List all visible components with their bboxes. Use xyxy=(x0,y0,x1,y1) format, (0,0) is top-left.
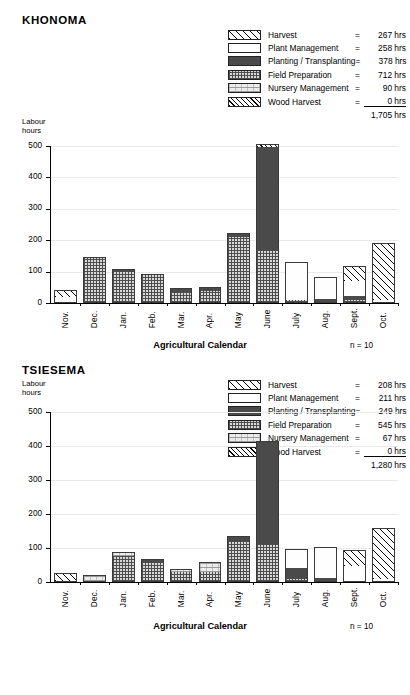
y-axis-tick xyxy=(46,412,50,413)
stacked-bar[interactable] xyxy=(199,287,222,303)
bar-segment xyxy=(315,578,336,581)
bar-slot[interactable] xyxy=(253,146,282,303)
x-axis-tick-label: Dec. xyxy=(90,587,99,607)
bar-slot[interactable] xyxy=(224,412,253,582)
x-axis-label-cell: July xyxy=(282,308,311,328)
bar-slot[interactable] xyxy=(138,412,167,582)
stacked-bar[interactable] xyxy=(343,266,366,303)
bar-slot[interactable] xyxy=(167,412,196,582)
stacked-bar[interactable] xyxy=(372,243,395,303)
legend-value: 378 hrs xyxy=(365,56,407,66)
stacked-bar[interactable] xyxy=(314,277,337,303)
stacked-bar[interactable] xyxy=(314,547,337,582)
x-axis-tick xyxy=(369,582,370,585)
stacked-bar[interactable] xyxy=(141,274,164,303)
stacked-bar[interactable] xyxy=(227,233,250,303)
stacked-bar[interactable] xyxy=(112,552,135,582)
bar-segment xyxy=(142,275,163,302)
bar-slot[interactable] xyxy=(109,146,138,303)
x-axis-label-cell: May xyxy=(224,587,253,607)
stacked-bar[interactable] xyxy=(227,536,250,582)
x-axis-label-cell: Apr. xyxy=(196,308,225,328)
legend-row: Field Preparation=712 hrs xyxy=(228,68,406,81)
bar-segment xyxy=(113,272,134,302)
y-axis-tick-label: 300 xyxy=(16,203,42,212)
x-axis-label-cell: Mar. xyxy=(167,308,196,328)
bar-slot[interactable] xyxy=(369,146,398,303)
bar-segment xyxy=(200,563,221,573)
x-axis-tick-label: Sept. xyxy=(350,308,359,328)
x-axis-label-cell: Mar. xyxy=(167,587,196,607)
bar-slot[interactable] xyxy=(138,146,167,303)
legend-label: Plant Management xyxy=(268,393,355,403)
x-axis-tick-label: Mar. xyxy=(177,587,186,607)
stacked-bar[interactable] xyxy=(170,569,193,582)
bar-slot[interactable] xyxy=(51,146,80,303)
bar-slot[interactable] xyxy=(311,412,340,582)
x-axis-tick xyxy=(282,582,283,585)
bar-slot[interactable] xyxy=(282,146,311,303)
bar-segment xyxy=(344,281,365,297)
stacked-bar[interactable] xyxy=(343,550,366,582)
nursery-management-swatch xyxy=(228,83,261,93)
stacked-bar[interactable] xyxy=(83,257,106,303)
legend-khonoma: Harvest=267 hrsPlant Management=258 hrsP… xyxy=(228,28,406,120)
x-axis-label-cell: Dec. xyxy=(80,587,109,607)
stacked-bar[interactable] xyxy=(170,288,193,303)
bar-slot[interactable] xyxy=(340,146,369,303)
stacked-bar[interactable] xyxy=(54,290,77,303)
legend-value: 0 hrs xyxy=(364,96,406,107)
bar-slot[interactable] xyxy=(196,412,225,582)
stacked-bar[interactable] xyxy=(256,144,279,303)
bar-slot[interactable] xyxy=(109,412,138,582)
stacked-bar[interactable] xyxy=(112,269,135,303)
stacked-bar[interactable] xyxy=(372,528,395,582)
x-axis-tick xyxy=(138,582,139,585)
bar-segment xyxy=(315,548,336,578)
legend-label: Wood Harvest xyxy=(268,97,355,107)
y-axis-tick-label: 300 xyxy=(16,475,42,484)
bar-slot[interactable] xyxy=(80,146,109,303)
bar-segment xyxy=(84,576,105,581)
x-axis-label-cell: Jan. xyxy=(109,587,138,607)
bar-group xyxy=(51,146,398,303)
planting-transplanting-swatch xyxy=(228,56,261,66)
legend-value: 90 hrs xyxy=(364,83,406,93)
stacked-bar[interactable] xyxy=(285,262,308,303)
x-axis-tick-label: Apr. xyxy=(205,308,214,328)
legend-equals-sign: = xyxy=(355,380,364,390)
legend-label: Planting / Transplanting xyxy=(268,56,356,66)
plant-management-swatch xyxy=(228,393,261,403)
stacked-bar[interactable] xyxy=(141,559,164,582)
bar-slot[interactable] xyxy=(340,412,369,582)
x-axis-label-cell: Nov. xyxy=(51,587,80,607)
bar-slot[interactable] xyxy=(369,412,398,582)
y-axis-title: Labour hours xyxy=(22,118,46,135)
bar-slot[interactable] xyxy=(224,146,253,303)
x-axis-tick xyxy=(225,582,226,585)
bar-slot[interactable] xyxy=(282,412,311,582)
plot-area-tsiesema: 0100200300400500 xyxy=(50,412,398,582)
y-axis-tick xyxy=(46,514,50,515)
bar-slot[interactable] xyxy=(167,146,196,303)
legend-value: 258 hrs xyxy=(364,43,406,53)
x-axis-tick xyxy=(398,303,399,306)
bar-segment xyxy=(257,544,278,581)
stacked-bar[interactable] xyxy=(54,573,77,582)
y-axis-tick xyxy=(46,146,50,147)
x-axis-label-cell: Feb. xyxy=(138,308,167,328)
bar-slot[interactable] xyxy=(253,412,282,582)
x-axis-tick xyxy=(167,582,168,585)
bar-slot[interactable] xyxy=(311,146,340,303)
stacked-bar[interactable] xyxy=(285,549,308,582)
bar-slot[interactable] xyxy=(80,412,109,582)
stacked-bar[interactable] xyxy=(199,562,222,582)
bar-slot[interactable] xyxy=(51,412,80,582)
stacked-bar[interactable] xyxy=(83,575,106,582)
x-axis-tick-label: Aug. xyxy=(321,587,330,607)
legend-label: Harvest xyxy=(268,380,355,390)
stacked-bar[interactable] xyxy=(256,441,279,582)
bar-segment xyxy=(373,244,394,300)
page-title: KHONOMA xyxy=(22,14,87,26)
bar-slot[interactable] xyxy=(196,146,225,303)
